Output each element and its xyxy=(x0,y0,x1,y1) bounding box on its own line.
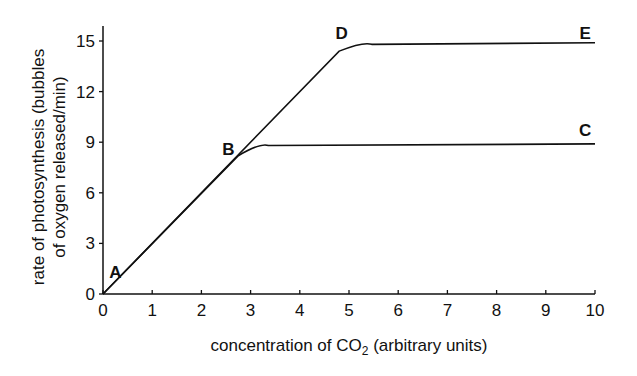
point-label-b: B xyxy=(222,140,234,159)
svg-text:rate of photosynthesis (bubble: rate of photosynthesis (bubbles xyxy=(29,49,48,285)
data-series xyxy=(103,43,595,294)
y-tick-label: 0 xyxy=(86,285,95,304)
y-axis-label: rate of photosynthesis (bubbles of oxyge… xyxy=(29,49,69,285)
x-tick-label: 1 xyxy=(147,301,156,320)
x-tick-label: 8 xyxy=(492,301,501,320)
photosynthesis-chart: 01234567891003691215 ABCDE concentration… xyxy=(0,0,637,376)
x-tick-label: 9 xyxy=(541,301,550,320)
y-tick-label: 12 xyxy=(76,83,95,102)
point-labels: ABCDE xyxy=(109,24,591,283)
y-tick-label: 15 xyxy=(76,32,95,51)
y-tick-label: 6 xyxy=(86,184,95,203)
x-tick-label: 10 xyxy=(586,301,605,320)
x-tick-label: 3 xyxy=(246,301,255,320)
x-tick-label: 7 xyxy=(443,301,452,320)
point-label-e: E xyxy=(579,24,590,43)
series-line-a-b-d-e xyxy=(103,43,595,294)
x-tick-label: 2 xyxy=(197,301,206,320)
x-axis-label: concentration of CO2 (arbitrary units) xyxy=(211,336,488,358)
x-tick-label: 5 xyxy=(344,301,353,320)
y-tick-label: 3 xyxy=(86,234,95,253)
axes: 01234567891003691215 xyxy=(76,26,604,320)
point-label-d: D xyxy=(335,24,347,43)
point-label-c: C xyxy=(579,121,591,140)
svg-text:of oxygen released/min): of oxygen released/min) xyxy=(50,76,69,257)
x-tick-label: 6 xyxy=(393,301,402,320)
y-tick-label: 9 xyxy=(86,133,95,152)
point-label-a: A xyxy=(109,263,121,282)
x-tick-label: 4 xyxy=(295,301,304,320)
x-tick-label: 0 xyxy=(98,301,107,320)
